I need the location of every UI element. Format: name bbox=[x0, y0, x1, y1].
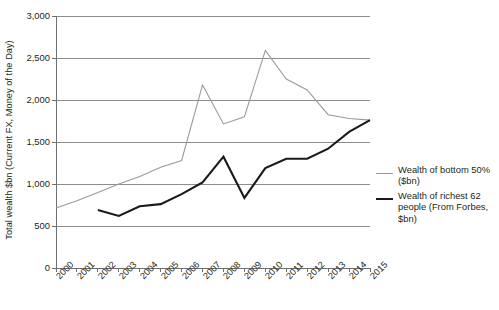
legend-item: Wealth of bottom 50% ($bn) bbox=[376, 164, 496, 187]
y-axis-tick-label: 2,500 bbox=[6, 53, 50, 62]
line-chart: Total wealth $bn (Current FX, Money of t… bbox=[0, 0, 499, 310]
x-axis-tick-labels: 2000200120022003200420052006200720082009… bbox=[56, 268, 386, 310]
legend-label: Wealth of richest 62 people (From Forbes… bbox=[398, 190, 494, 224]
y-axis-tick-label: 3,000 bbox=[6, 11, 50, 20]
series-line-2 bbox=[98, 120, 370, 216]
gridlines bbox=[56, 16, 370, 268]
y-axis-tick-labels: 05001,0001,5002,0002,5003,000 bbox=[4, 0, 50, 310]
legend-swatch-icon bbox=[376, 194, 393, 203]
series-lines bbox=[56, 50, 370, 215]
legend-swatch-icon bbox=[376, 168, 393, 177]
y-axis-tick-label: 1,500 bbox=[6, 137, 50, 146]
plot-area bbox=[56, 16, 370, 268]
y-axis-tick-label: 0 bbox=[6, 263, 50, 272]
chart-legend: Wealth of bottom 50% ($bn)Wealth of rich… bbox=[376, 164, 496, 227]
y-axis-tick-label: 2,000 bbox=[6, 95, 50, 104]
x-axis-tick-label: 2015 bbox=[368, 260, 390, 282]
plot-svg bbox=[56, 16, 370, 268]
y-axis-tick-label: 500 bbox=[6, 221, 50, 230]
y-axis-ticks bbox=[52, 16, 56, 268]
legend-item: Wealth of richest 62 people (From Forbes… bbox=[376, 190, 496, 224]
y-axis-tick-label: 1,000 bbox=[6, 179, 50, 188]
legend-label: Wealth of bottom 50% ($bn) bbox=[398, 164, 494, 187]
